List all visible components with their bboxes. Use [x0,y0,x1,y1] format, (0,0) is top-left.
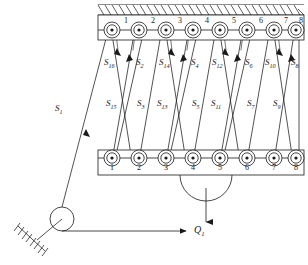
upper-sheave-number: 7 [281,17,291,25]
rope-segment-s6 [224,34,251,155]
hatched-ceiling [98,5,304,16]
lower-sheave-number: 1 [107,164,117,172]
rope-label-s16: S16 [104,58,115,69]
pulley-block-diagram: 1 2 3 4 5 6 7 8 1 2 3 4 5 6 7 8 S16 S2 S… [0,0,308,265]
upper-sheave-number: 3 [175,17,185,25]
rope-label-s6: S6 [245,58,253,69]
rope-segment-s16 [112,34,131,155]
rope-label-s13: S13 [157,99,168,110]
rope-segment-s4 [170,34,197,155]
rope-label-s2: S2 [136,58,144,69]
lower-sheave-number: 3 [161,164,171,172]
upper-sheave-number: 1 [121,17,131,25]
rope-segment-s7 [248,34,269,155]
upper-sheave-number: 4 [202,17,212,25]
rope-label-s11: S11 [211,99,221,110]
rope-label-s5: S5 [192,99,200,110]
rope-label-s12: S12 [212,58,223,69]
load-hook [180,175,232,222]
rope-label-s14: S14 [159,58,170,69]
rope-segment-s3 [140,34,161,155]
rope-label-s10: S10 [265,58,276,69]
lower-sheave-number: 5 [215,164,225,172]
upper-sheave-number: 6 [256,17,266,25]
rope-label-s15: S15 [106,99,117,110]
lower-sheave-number: 7 [269,164,279,172]
lower-sheave-number: 2 [134,164,144,172]
rope-label-s9: S9 [273,99,281,110]
rope-segment-s10 [274,34,292,155]
upper-sheave-number: 2 [148,17,158,25]
rope-segment-s14 [166,34,185,155]
rope-direction-arrows [83,48,295,137]
rope-segment-s2 [116,34,143,155]
lower-sheave-number: 8 [291,164,301,172]
upper-sheave-number: 5 [229,17,239,25]
rope-label-s1: S1 [55,104,63,115]
upper-sheave-number: 8 [296,17,306,25]
rope-label-s8: S8 [291,58,299,69]
rope-segment-s1 [62,31,108,207]
diagram-canvas [0,0,308,265]
rope-segment-s5 [194,34,215,155]
rope-segment-s12 [220,34,239,155]
lower-sheave-number: 4 [188,164,198,172]
rope-label-s3: S3 [137,99,145,110]
rope-label-s7: S7 [247,99,255,110]
lower-sheave-number: 6 [242,164,252,172]
rope-label-s4: S4 [191,58,199,69]
load-force-label: Q1 [194,225,205,238]
